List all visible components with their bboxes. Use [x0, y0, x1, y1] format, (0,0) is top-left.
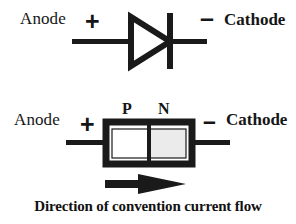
diode-diagram-figure: Anode + – Cathode Anode + P N – Cathode [0, 0, 296, 224]
n-region-label: N [158, 100, 170, 118]
pn-junction-symbol [0, 118, 296, 170]
anode-lead-line [72, 39, 134, 44]
arrow-head [138, 174, 186, 194]
n-region-box [150, 129, 186, 158]
p-region-box [112, 129, 148, 158]
cathode-lead-line [171, 39, 207, 44]
p-region-label: P [122, 100, 132, 118]
pn-junction-divider [147, 124, 151, 163]
figure-caption: Direction of convention current flow [0, 198, 296, 215]
diode-schematic-symbol [0, 0, 296, 80]
conventional-current-arrow [0, 172, 296, 196]
diode-triangle [131, 17, 170, 66]
